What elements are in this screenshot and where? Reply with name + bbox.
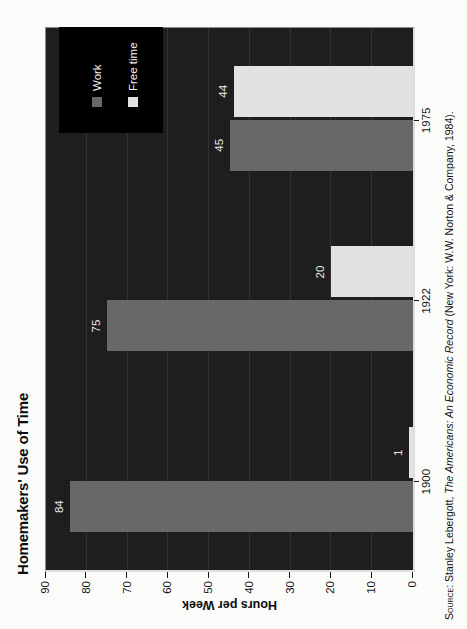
legend-item-work: Work (91, 27, 103, 107)
bar-free-time-1922 (331, 247, 413, 298)
x-tick-label-1922: 1922 (420, 271, 432, 331)
bar-work-1900 (70, 481, 413, 532)
bar-free-time-1900 (409, 427, 413, 478)
legend-label-work: Work (91, 64, 103, 91)
y-tick-mark-70 (126, 572, 127, 578)
y-tick-mark-20 (330, 572, 331, 578)
legend-item-free-time: Free time (127, 27, 139, 107)
plot-area: 84175204544 Work Free time (45, 27, 415, 572)
bar-free-time-1975 (234, 66, 413, 117)
y-tick-mark-30 (289, 572, 290, 578)
value-label-free-time-1975: 44 (217, 69, 229, 113)
source-author: Stanley Lebergott, (443, 494, 455, 585)
y-tick-mark-10 (371, 572, 372, 578)
source-word: Source: (443, 585, 455, 620)
free-time-swatch-icon (128, 97, 138, 107)
x-tick-mark-1975 (414, 120, 419, 121)
bar-work-1922 (107, 301, 413, 352)
source-book-title: The Americans: An Economic Record (443, 319, 455, 493)
bar-work-1975 (230, 120, 414, 171)
x-tick-label-1975: 1975 (420, 90, 432, 150)
y-tick-mark-50 (208, 572, 209, 578)
y-axis-label: Hours per Week (46, 597, 413, 612)
legend: Work Free time (59, 27, 163, 133)
value-label-work-1900: 84 (53, 485, 65, 529)
y-tick-mark-80 (85, 572, 86, 578)
y-tick-mark-90 (45, 572, 46, 578)
y-tick-mark-0 (412, 572, 413, 578)
source-citation: Source: Stanley Lebergott, The Americans… (443, 10, 455, 620)
y-tick-mark-40 (248, 572, 249, 578)
value-label-free-time-1922: 20 (314, 250, 326, 294)
source-publisher: (New York: W.W. Norton & Company, 1984). (443, 111, 455, 319)
value-label-free-time-1900: 1 (392, 431, 404, 475)
value-label-work-1975: 45 (213, 123, 225, 167)
page: { "chart_data": { "type": "bar", "title"… (0, 0, 467, 629)
x-tick-mark-1900 (414, 481, 419, 482)
work-swatch-icon (92, 97, 102, 107)
x-tick-mark-1922 (414, 301, 419, 302)
x-tick-label-1900: 1900 (420, 452, 432, 512)
value-label-work-1922: 75 (90, 304, 102, 348)
chart-title: Homemakers' Use of Time (14, 393, 31, 575)
legend-label-free-time: Free time (127, 42, 139, 91)
y-tick-mark-60 (167, 572, 168, 578)
rotated-chart-canvas: Homemakers' Use of Time 84175204544 Work… (0, 0, 467, 629)
